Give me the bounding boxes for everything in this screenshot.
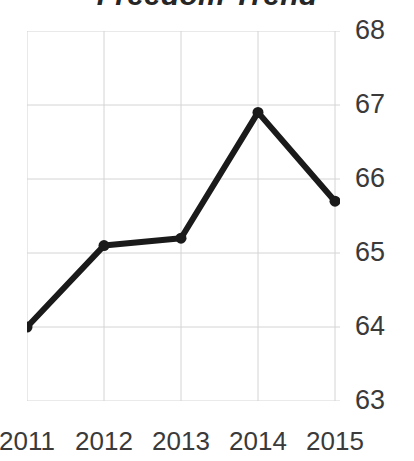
y-axis-tick-label: 63 [355, 387, 411, 414]
x-axis-tick-label: 2015 [290, 428, 380, 454]
chart-plot-svg [27, 31, 340, 401]
data-point-marker [99, 240, 110, 251]
horizontal-gridlines [27, 31, 340, 401]
data-point-marker [176, 233, 187, 244]
y-axis-tick-label: 66 [355, 165, 411, 192]
data-point-marker [330, 196, 341, 207]
y-axis-tick-label: 64 [355, 313, 411, 340]
y-axis-tick-label: 67 [355, 91, 411, 118]
plot-area [27, 31, 340, 401]
chart-title: Freedom Trend [0, 0, 414, 12]
data-point-marker [253, 107, 264, 118]
y-axis-tick-label: 68 [355, 17, 411, 44]
vertical-gridlines [27, 31, 335, 401]
freedom-trend-chart: Freedom Trend 686766656463 2011201220132… [0, 0, 414, 461]
data-point-markers [27, 107, 340, 333]
y-axis-tick-label: 65 [355, 239, 411, 266]
